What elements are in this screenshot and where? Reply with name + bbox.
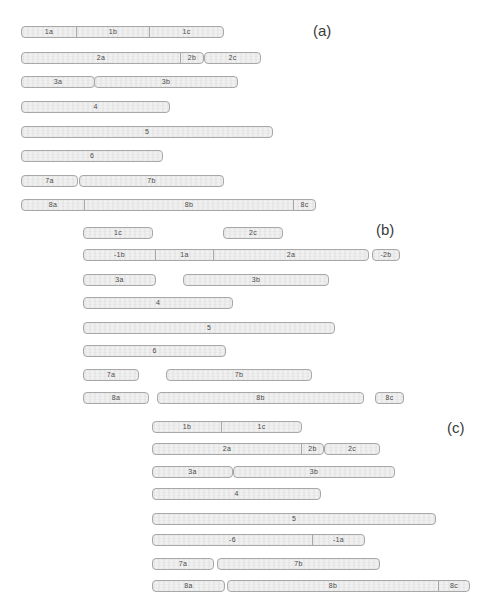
bar-b-row1-1c: 1c [83,227,153,239]
segment-label--1a: -1a [333,535,344,545]
bar-b-row3-3b: 3b [183,274,329,286]
bar-a-row2-2c: 2c [204,52,261,64]
segment-label-8b: 8b [329,581,337,591]
segment-8a: 8a [84,393,148,403]
bar-a-row7-7a: 7a [21,175,78,187]
bar-b-row5-5: 5 [83,322,335,334]
segment-6: 6 [22,151,162,161]
segment-label-7b: 7b [235,370,243,380]
segment-label-1c: 1c [114,228,122,238]
segment-2a: 2a [22,53,180,63]
segment-label-1c: 1c [183,27,191,37]
bar-c-row3-3b: 3b [233,466,395,478]
segment-7a: 7a [153,559,213,569]
segment-label-7b: 7b [294,559,302,569]
segment-5: 5 [22,127,272,137]
segment-label-3b: 3b [162,77,170,87]
segment-5: 5 [84,323,334,333]
segment-7b: 7b [167,370,311,380]
bar-a-row5-5: 5 [21,126,273,138]
segment-label-8c: 8c [301,200,309,210]
bar-c-row2-2a-2b: 2a2b [152,443,324,455]
segment-label-7a: 7a [45,176,53,186]
segment-label-6: 6 [90,151,94,161]
segment-8c: 8c [293,200,315,210]
segment-label-2a: 2a [287,250,295,260]
segment-label-2b: 2b [188,53,196,63]
segment--1a: -1a [312,535,364,545]
segment-2c: 2c [205,53,260,63]
bar-b-row4-4: 4 [83,297,233,309]
bar-a-row8-8a-8b-8c: 8a8b8c [21,199,316,211]
segment-7b: 7b [218,559,379,569]
segment-1c: 1c [149,27,223,37]
segment-3a: 3a [84,275,155,285]
segment-3a: 3a [153,467,232,477]
segment-1c: 1c [221,422,301,432]
bar-a-row4-4: 4 [21,101,170,113]
segment-label-5: 5 [207,323,211,333]
segment-label-1a: 1a [180,250,188,260]
segment-label-2a: 2a [223,444,231,454]
segment-label-2c: 2c [249,228,257,238]
segment-label-4: 4 [234,489,238,499]
segment-2c: 2c [224,228,282,238]
bar-c-row5-5: 5 [152,513,436,525]
segment-label-8b: 8b [256,393,264,403]
segment-8a: 8a [153,581,224,591]
segment-label-7b: 7b [147,176,155,186]
segment-label-3a: 3a [115,275,123,285]
segment-label--2b: -2b [380,250,391,260]
segment-7b: 7b [80,176,223,186]
figure-canvas: 1a1b1c2a2b2c3a3b4567a7b8a8b8c1c2c-1b1a2a… [0,0,484,610]
group-label-c: (c) [447,419,465,436]
bar-a-row6-6: 6 [21,150,163,162]
segment--2b: -2b [373,250,399,260]
bar-c-row7-7a: 7a [152,558,214,570]
bar-b-row1-2c: 2c [223,227,283,239]
group-label-a: (a) [313,22,331,39]
bar-b-row8-8c: 8c [375,392,404,404]
segment-label-4: 4 [156,298,160,308]
segment-label-2b: 2b [308,444,316,454]
bar-b-row8-8a: 8a [83,392,149,404]
bar-c-row1-1b-1c: 1b1c [152,421,302,433]
segment-label-3a: 3a [188,467,196,477]
segment-1b: 1b [153,422,221,432]
bar-c-row3-3a: 3a [152,466,233,478]
segment-label-3b: 3b [310,467,318,477]
segment-2b: 2b [301,444,323,454]
segment-label-5: 5 [145,127,149,137]
bar-a-row7-7b: 7b [79,175,224,187]
segment-6: 6 [84,346,225,356]
segment-5: 5 [153,514,435,524]
segment-label-3b: 3b [252,275,260,285]
segment-label-8b: 8b [185,200,193,210]
segment-8b: 8b [158,393,363,403]
segment-2b: 2b [180,53,203,63]
segment-3a: 3a [22,77,94,87]
segment-3b: 3b [184,275,328,285]
segment-8a: 8a [22,200,84,210]
segment-1a: 1a [155,250,213,260]
segment-7a: 7a [84,370,138,380]
bar-c-row2-2c: 2c [324,443,380,455]
segment-label-8a: 8a [49,200,57,210]
bar-b-row2--2b: -2b [372,249,400,261]
segment-3b: 3b [95,77,237,87]
segment-label-2c: 2c [229,53,237,63]
bar-c-row8-8a: 8a [152,580,225,592]
segment-7a: 7a [22,176,77,186]
bar-b-row8-8b: 8b [157,392,364,404]
bar-c-row8-8b-8c: 8b8c [227,580,470,592]
bar-b-row3-3a: 3a [83,274,156,286]
bar-a-row2-2a-2b: 2a2b [21,52,204,64]
segment-label-7a: 7a [179,559,187,569]
bar-a-row3-3b: 3b [94,76,238,88]
segment-2a: 2a [213,250,368,260]
segment-label-5: 5 [292,514,296,524]
segment-2a: 2a [153,444,301,454]
segment-label-1b: 1b [183,422,191,432]
segment-3b: 3b [234,467,394,477]
segment-8b: 8b [228,581,438,591]
